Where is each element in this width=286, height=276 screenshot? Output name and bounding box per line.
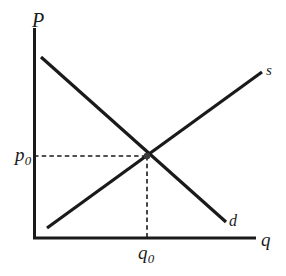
equilibrium-price-symbol: p bbox=[15, 144, 25, 165]
demand-curve bbox=[41, 57, 226, 222]
demand-curve-label: d bbox=[229, 213, 237, 229]
x-axis-label: q bbox=[261, 230, 271, 249]
equilibrium-quantity-label: q0 bbox=[138, 243, 154, 262]
supply-curve-label: s bbox=[266, 63, 272, 78]
supply-demand-diagram: P q p0 q0 s d bbox=[0, 0, 286, 276]
diagram-vector-layer bbox=[0, 0, 286, 276]
supply-curve bbox=[47, 72, 262, 228]
equilibrium-quantity-subscript: 0 bbox=[148, 251, 154, 266]
equilibrium-price-subscript: 0 bbox=[25, 153, 31, 168]
equilibrium-quantity-symbol: q bbox=[138, 242, 148, 263]
y-axis-label: P bbox=[32, 10, 44, 30]
equilibrium-point-marker bbox=[144, 153, 151, 160]
equilibrium-price-label: p0 bbox=[15, 145, 31, 164]
